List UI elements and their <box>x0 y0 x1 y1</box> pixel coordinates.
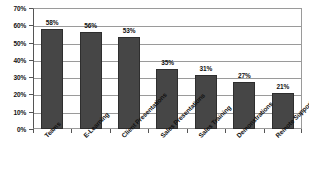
x-axis-tick-mark <box>33 129 34 133</box>
y-axis-tick-label: 50% <box>14 39 26 46</box>
bar-value-label: 21% <box>276 83 289 90</box>
bar-slot: 58% <box>33 8 71 129</box>
y-axis-tick-label: 30% <box>14 74 26 81</box>
bar-value-label: 58% <box>46 19 59 26</box>
bar[interactable] <box>118 37 140 129</box>
bar-value-label: 31% <box>200 65 213 72</box>
bar[interactable] <box>80 32 102 129</box>
bar-value-label: 35% <box>161 59 174 66</box>
bar-chart: 0%10%20%30%40%50%60%70% 58%56%53%35%31%2… <box>0 0 309 188</box>
x-axis-tick-mark <box>187 129 188 133</box>
bar-value-label: 27% <box>238 72 251 79</box>
y-axis: 0%10%20%30%40%50%60%70% <box>0 0 31 140</box>
y-axis-tick-label: 20% <box>14 91 26 98</box>
bar-value-label: 56% <box>84 22 97 29</box>
y-axis-tick-label: 10% <box>14 108 26 115</box>
y-axis-tick-label: 70% <box>14 5 26 12</box>
x-axis-tick-mark <box>148 129 149 133</box>
x-axis-labels: TeamsE-LearningClient PresentationsSales… <box>33 134 302 188</box>
bar-value-label: 53% <box>123 27 136 34</box>
x-axis-tick-mark <box>264 129 265 133</box>
y-axis-tick-label: 40% <box>14 56 26 63</box>
y-axis-tick-label: 0% <box>17 126 26 133</box>
x-axis-tick-mark <box>110 129 111 133</box>
bar[interactable] <box>41 29 63 129</box>
x-axis-tick-mark <box>71 129 72 133</box>
x-axis-tick-mark <box>301 129 302 133</box>
x-axis-tick-mark <box>225 129 226 133</box>
y-axis-tick-label: 60% <box>14 22 26 29</box>
